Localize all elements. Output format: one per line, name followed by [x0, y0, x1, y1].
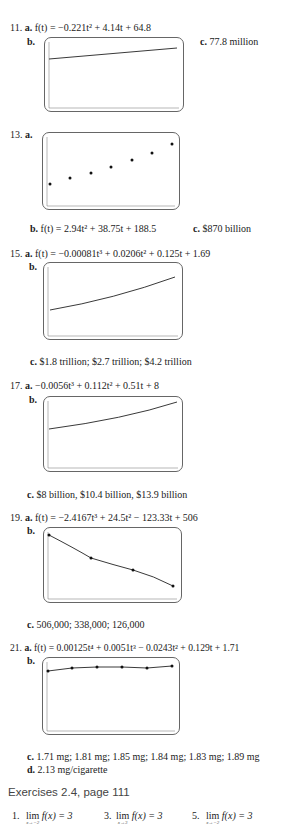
part-b-equation: f(t) = 2.94t² + 38.75t + 188.5 [41, 223, 157, 234]
part-c-answer: $8 billion, $10.4 billion, $13.9 billion [36, 489, 187, 500]
line-chart [44, 263, 182, 339]
problem-13-part-c: c. $870 billion [193, 223, 251, 234]
limit-answer-1: 1. lim x→−2 f(x) = 3 [12, 810, 72, 821]
part-a-equation: f(t) = −0.00081t³ + 0.0206t² + 0.125t + … [35, 248, 210, 259]
graph-11 [44, 37, 184, 112]
part-b-label: b. [27, 655, 35, 666]
part-b-label: b. [27, 36, 35, 47]
limit-subscript: x→−2 [26, 820, 39, 825]
part-c-answer: 506,000; 338,000; 126,000 [36, 619, 144, 630]
problem-number: 19. [10, 512, 23, 523]
problem-19-part-c: c. 506,000; 338,000; 126,000 [27, 619, 145, 630]
problem-11-part-c: c. 77.8 million [200, 36, 258, 47]
part-b-label: b. [30, 223, 38, 234]
limit-expression: f(x) = 3 [222, 810, 253, 821]
part-a-equation: −0.0056t³ + 0.112t² + 0.51t + 8 [35, 380, 159, 391]
part-a-equation: f(t) = 0.00125t⁴ + 0.0051t³ − 0.0243t² +… [34, 642, 239, 653]
part-a-label: a. [24, 642, 31, 653]
part-c-answer: $870 billion [202, 223, 251, 234]
problem-number: 21. [10, 642, 22, 653]
part-b-label: b. [29, 261, 37, 272]
limit-expression: f(x) = 3 [42, 810, 73, 821]
graph-15 [43, 262, 183, 340]
part-c-label: c. [27, 489, 34, 500]
limit-operator: lim x→−2 [26, 810, 39, 821]
problem-13: 13. a. [10, 129, 33, 140]
problem-21-part-d: d. 2.13 mg/cigarette [27, 764, 108, 775]
problem-21-part-c: c. 1.71 mg; 1.81 mg; 1.85 mg; 1.84 mg; 1… [27, 751, 260, 762]
problem-17: 17. a. −0.0056t³ + 0.112t² + 0.51t + 8 [10, 380, 159, 391]
part-a-label: a. [25, 129, 33, 140]
limit-operator: lim x→3 [116, 810, 129, 821]
line-chart [43, 658, 179, 734]
problem-19: 19. a. f(t) = −2.4167t³ + 24.5t² − 123.3… [10, 512, 198, 523]
scatter-chart [43, 133, 179, 209]
part-c-label: c. [27, 751, 34, 762]
problem-number: 17. [10, 380, 23, 391]
section-heading: Exercises 2.4, page 111 [8, 786, 130, 798]
problem-number: 13. [10, 129, 23, 140]
graph-17 [43, 396, 183, 472]
answer-number: 5. [192, 810, 200, 821]
part-c-label: c. [27, 619, 34, 630]
problem-11: 11. a. f(t) = −0.221t² + 4.14t + 64.8 [10, 22, 151, 33]
graph-13 [42, 132, 180, 210]
line-chart [44, 528, 181, 602]
problem-number: 11. [10, 22, 22, 33]
part-c-answer: 1.71 mg; 1.81 mg; 1.85 mg; 1.84 mg; 1.83… [36, 751, 259, 762]
line-chart [45, 38, 183, 111]
answer-number: 1. [12, 810, 20, 821]
part-d-label: d. [27, 764, 35, 775]
part-c-answer: $1.8 trillion; $2.7 trillion; $4.2 trill… [39, 356, 191, 367]
part-a-equation: f(t) = −2.4167t³ + 24.5t² − 123.33t + 50… [35, 512, 198, 523]
limit-answer-3: 3. lim x→3 f(x) = 3 [104, 810, 162, 821]
limit-answer-5: 5. lim x→−2 f(x) = 3 [192, 810, 252, 821]
part-a-equation: f(t) = −0.221t² + 4.14t + 64.8 [35, 22, 151, 33]
graph-19 [43, 527, 182, 603]
problem-13-part-b: b. f(t) = 2.94t² + 38.75t + 188.5 [30, 223, 156, 234]
answer-number: 3. [104, 810, 112, 821]
problem-21: 21. a. f(t) = 0.00125t⁴ + 0.0051t³ − 0.0… [10, 642, 239, 653]
part-d-answer: 2.13 mg/cigarette [38, 764, 108, 775]
graph-21 [42, 657, 180, 735]
limit-operator: lim x→−2 [206, 810, 219, 821]
part-c-label: c. [200, 36, 207, 47]
part-a-label: a. [25, 248, 33, 259]
problem-17-part-c: c. $8 billion, $10.4 billion, $13.9 bill… [27, 489, 187, 500]
part-a-label: a. [25, 380, 33, 391]
part-b-label: b. [29, 394, 37, 405]
part-a-label: a. [25, 22, 33, 33]
problem-number: 15. [10, 248, 23, 259]
part-a-label: a. [25, 512, 33, 523]
part-c-answer: 77.8 million [209, 36, 258, 47]
problem-15: 15. a. f(t) = −0.00081t³ + 0.0206t² + 0.… [10, 248, 210, 259]
limit-subscript: x→3 [116, 820, 129, 825]
limit-subscript: x→−2 [206, 820, 219, 825]
limit-expression: f(x) = 3 [132, 810, 163, 821]
part-c-label: c. [193, 223, 200, 234]
part-b-label: b. [27, 525, 35, 536]
part-c-label: c. [30, 356, 37, 367]
problem-15-part-c: c. $1.8 trillion; $2.7 trillion; $4.2 tr… [30, 356, 192, 367]
line-chart [44, 397, 182, 471]
